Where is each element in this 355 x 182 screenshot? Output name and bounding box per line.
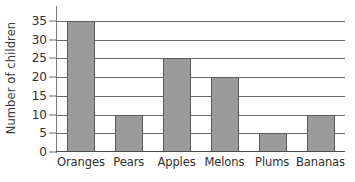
y-axis-title-text: Number of children bbox=[4, 21, 18, 134]
x-axis-label-slot: Apples bbox=[153, 155, 201, 179]
bar-slot bbox=[249, 21, 297, 152]
y-axis-tick-labels: 35302520151050 bbox=[22, 0, 49, 158]
x-axis-label-slot: Plums bbox=[248, 155, 296, 179]
bar-slot bbox=[57, 21, 105, 152]
x-axis-category-label: Plums bbox=[255, 155, 289, 169]
y-axis-tick-label: 5 bbox=[39, 127, 47, 139]
x-axis-category-label: Melons bbox=[204, 155, 244, 169]
x-axis-category-label: Oranges bbox=[57, 155, 105, 169]
x-axis-category-labels: OrangesPearsApplesMelonsPlumsBananas bbox=[57, 155, 345, 179]
bar bbox=[115, 115, 144, 152]
x-axis-label-slot: Oranges bbox=[57, 155, 105, 179]
x-axis-category-label: Pears bbox=[113, 155, 144, 169]
y-axis-tick-label: 20 bbox=[32, 71, 47, 83]
bar bbox=[307, 115, 336, 152]
y-axis-tick-label: 10 bbox=[32, 109, 47, 121]
x-axis-label-slot: Bananas bbox=[296, 155, 345, 179]
y-axis-tick-label: 0 bbox=[39, 146, 47, 158]
bar-chart: Number of children 35302520151050 Orange… bbox=[0, 0, 355, 182]
bar bbox=[211, 77, 240, 152]
y-axis-tick-label: 25 bbox=[32, 52, 47, 64]
x-axis-category-label: Bananas bbox=[296, 155, 345, 169]
x-axis-label-slot: Pears bbox=[105, 155, 153, 179]
x-axis-category-label: Apples bbox=[157, 155, 195, 169]
plot-area bbox=[57, 21, 345, 152]
y-axis-tick-label: 30 bbox=[32, 34, 47, 46]
x-axis-line bbox=[56, 151, 345, 152]
y-axis-tick-label: 15 bbox=[32, 90, 47, 102]
bar bbox=[259, 133, 288, 152]
bar-slot bbox=[201, 21, 249, 152]
bar-slot bbox=[153, 21, 201, 152]
bar-slot bbox=[297, 21, 345, 152]
y-axis-tick-label: 35 bbox=[32, 15, 47, 27]
bar bbox=[163, 58, 192, 152]
x-axis-label-slot: Melons bbox=[200, 155, 248, 179]
bar-series bbox=[57, 21, 345, 152]
bar bbox=[67, 21, 96, 152]
bar-slot bbox=[105, 21, 153, 152]
y-axis-title: Number of children bbox=[0, 0, 22, 155]
